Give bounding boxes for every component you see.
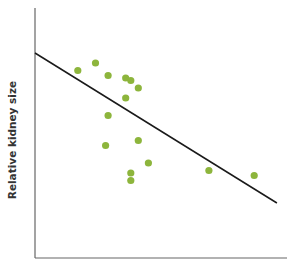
- y-axis-label: Relative kidney size: [6, 130, 18, 150]
- data-point: [135, 137, 142, 144]
- data-point: [135, 84, 142, 91]
- data-point: [74, 67, 81, 74]
- data-point: [102, 142, 109, 149]
- data-point: [251, 172, 258, 179]
- data-point: [145, 159, 152, 166]
- data-points: [74, 59, 258, 184]
- data-point: [92, 59, 99, 66]
- data-point: [205, 167, 212, 174]
- data-point: [127, 169, 134, 176]
- data-point: [105, 112, 112, 119]
- data-point: [127, 77, 134, 84]
- data-point: [127, 177, 134, 184]
- y-axis-label-text: Relative kidney size: [6, 81, 18, 199]
- scatter-chart: [0, 0, 294, 273]
- trend-line: [35, 53, 277, 203]
- data-point: [105, 72, 112, 79]
- data-point: [122, 94, 129, 101]
